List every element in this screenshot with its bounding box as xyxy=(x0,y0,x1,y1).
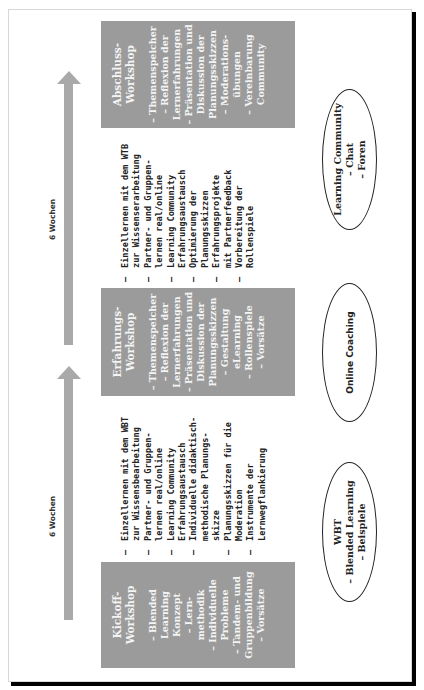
online-coaching-ellipse: Online Coaching xyxy=(322,283,377,422)
workshop-topics: – Themenspeicher – Reflexion der Lernerf… xyxy=(147,288,267,396)
wbt-ellipse: WBT – Blended Learning – Beispiele xyxy=(322,462,377,602)
list-item: Partner- und Gruppen- lernen real/online xyxy=(143,405,166,555)
kickoff-workshop-box: Kickoff- Workshop – Blended Learning Kon… xyxy=(101,562,295,668)
ellipse-text: WBT – Blended Learning – Beispiele xyxy=(332,480,368,583)
phase-2-activity-list: Einzellernen mit dem WTB zur Wissenserar… xyxy=(120,132,257,282)
timeline-arrow-2-shaft xyxy=(64,83,73,345)
list-item: Vorbereitung der Rollenspiele xyxy=(234,132,257,282)
learning-community-ellipse: Learning Community – Chat – Foren xyxy=(322,89,377,230)
erfahrungs-workshop-box: Erfahrungs- Workshop – Themenspeicher – … xyxy=(101,288,295,396)
list-item: Einzellernen mit dem WBT zur Wissensbear… xyxy=(120,405,143,555)
workshop-topics: – Blended Learning Konzept – Lern- metho… xyxy=(147,562,267,668)
ellipse-text: Learning Community – Chat – Foren xyxy=(332,103,368,216)
interval-label-2: 6 Wochen xyxy=(48,199,57,240)
interval-label-1: 6 Wochen xyxy=(48,496,57,537)
workshop-topics: – Themenspeicher – Reflexion der Lernerf… xyxy=(147,21,267,128)
list-item: Learning Community Erfahrungsaustausch xyxy=(166,405,189,555)
timeline-arrow-1-shaft xyxy=(64,377,73,620)
diagram-canvas: 6 Wochen 6 Wochen Kickoff- Workshop – Bl… xyxy=(0,0,424,690)
list-item: Planungsskizzen für die Moderation xyxy=(223,405,246,555)
list-item: Partner- und Gruppen- lernen real/online xyxy=(143,132,166,282)
workshop-title: Kickoff- Workshop xyxy=(111,562,137,668)
workshop-title: Abschluss- Workshop xyxy=(111,21,137,128)
list-item: Einzellernen mit dem WTB zur Wissenserar… xyxy=(120,132,143,282)
list-item: Individuelle didaktisch- methodische Pla… xyxy=(188,405,222,555)
phase-1-activity-list: Einzellernen mit dem WBT zur Wissensbear… xyxy=(120,405,268,555)
list-item: Optimierung der Planungsskizzen xyxy=(188,132,211,282)
arrow-up-icon xyxy=(57,71,81,84)
workshop-title: Erfahrungs- Workshop xyxy=(111,288,137,396)
list-item: Erfahrungsprojekte mit Partnerfeedback xyxy=(211,132,234,282)
abschluss-workshop-box: Abschluss- Workshop – Themenspeicher – R… xyxy=(101,21,295,128)
list-item: Instrumente der Lernwegflankierung xyxy=(245,405,268,555)
ellipse-text: Online Coaching xyxy=(344,311,356,393)
arrow-up-icon xyxy=(57,366,81,379)
list-item: Learning Community Erfahrungsaustausch xyxy=(166,132,189,282)
